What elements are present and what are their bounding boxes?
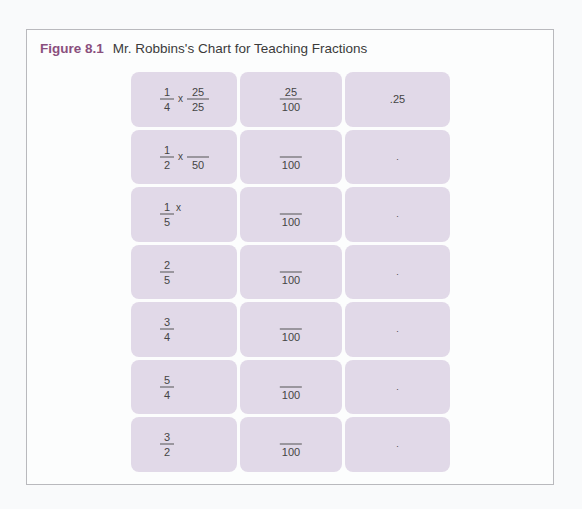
hundredths-fraction: 25100 [280,86,302,113]
decimal-value: . [396,440,399,449]
decimal-value: . [396,267,399,276]
decimal-cell: . [345,245,450,300]
multiply-sign: x [178,93,183,104]
hundredths-cell: 25100 [240,72,342,127]
hundredths-fraction: 100 [280,201,302,228]
fraction-cell: 34 [131,302,237,357]
decimal-value: . [396,152,399,161]
fraction: 32 [160,431,174,458]
fraction-cell: 32 [131,417,237,472]
figure-title: Mr. Robbins's Chart for Teaching Fractio… [113,41,367,56]
fraction-cell: 14 x 2525 [131,72,237,127]
multiply-sign: x [178,150,183,161]
hundredths-cell: 100 [240,130,342,185]
figure-box: Figure 8.1Mr. Robbins's Chart for Teachi… [26,29,554,485]
hundredths-cell: 100 [240,360,342,415]
decimal-cell: . [345,130,450,185]
fraction: 14 [160,86,174,113]
multiply-sign: x [176,202,181,213]
fraction: 12 [160,143,174,170]
hundredths-fraction: 100 [280,316,302,343]
hundredths-fraction: 100 [280,373,302,400]
fraction-cell: 12 x 50 [131,130,237,185]
hundredths-fraction: 100 [280,258,302,285]
decimal-value: . [396,325,399,334]
fractions-chart-grid: 14 x 2525 25100 .25 12 x 50 100 [131,72,450,472]
fraction: 15 [160,201,174,228]
multiplier-fraction: 2525 [187,86,209,113]
decimal-cell: . [345,302,450,357]
multiplier-fraction: 50 [187,143,209,170]
decimal-cell: . [345,360,450,415]
hundredths-fraction: 100 [280,143,302,170]
hundredths-fraction: 100 [280,431,302,458]
fraction: 54 [160,373,174,400]
fraction-cell: 15 x [131,187,237,242]
decimal-cell: . [345,417,450,472]
fraction: 34 [160,316,174,343]
decimal-value: .25 [390,93,405,105]
figure-number: Figure 8.1 [40,41,104,56]
decimal-value: . [396,382,399,391]
fraction-cell: 54 [131,360,237,415]
figure-caption: Figure 8.1Mr. Robbins's Chart for Teachi… [40,41,367,56]
fraction-cell: 25 [131,245,237,300]
decimal-cell: . [345,187,450,242]
decimal-cell: .25 [345,72,450,127]
hundredths-cell: 100 [240,302,342,357]
hundredths-cell: 100 [240,187,342,242]
fraction: 25 [160,258,174,285]
hundredths-cell: 100 [240,245,342,300]
hundredths-cell: 100 [240,417,342,472]
decimal-value: . [396,210,399,219]
